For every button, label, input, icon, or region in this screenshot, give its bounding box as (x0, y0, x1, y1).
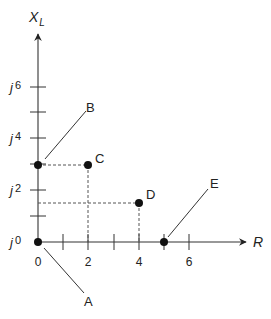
x-axis-title: R (253, 234, 263, 250)
guide-lines (38, 165, 139, 242)
svg-text:j2: j2 (8, 182, 21, 198)
point-a (34, 238, 42, 246)
svg-text:4: 4 (136, 255, 143, 269)
y-axis-title: XL (28, 9, 45, 28)
leader-lines (44, 111, 208, 293)
y-tick-labels: j0 j2 j4 j6 (8, 79, 21, 250)
point-labels: A B C D E (84, 100, 219, 309)
svg-text:j0: j0 (8, 234, 21, 250)
label-a: A (84, 294, 93, 309)
point-c (84, 161, 92, 169)
svg-text:2: 2 (85, 255, 92, 269)
label-c: C (95, 151, 104, 166)
point-b (34, 161, 42, 169)
point-e (160, 238, 168, 246)
label-b: B (86, 100, 95, 115)
svg-text:6: 6 (186, 255, 193, 269)
x-tick-labels: 0 2 4 6 (35, 255, 193, 269)
label-e: E (210, 176, 219, 191)
point-d (135, 199, 143, 207)
impedance-diagram: XL R j0 j2 j4 j6 0 2 4 6 A B C D E (0, 0, 271, 319)
svg-text:j6: j6 (8, 79, 21, 95)
label-d: D (146, 187, 155, 202)
svg-text:0: 0 (35, 255, 42, 269)
svg-text:j4: j4 (8, 130, 21, 146)
